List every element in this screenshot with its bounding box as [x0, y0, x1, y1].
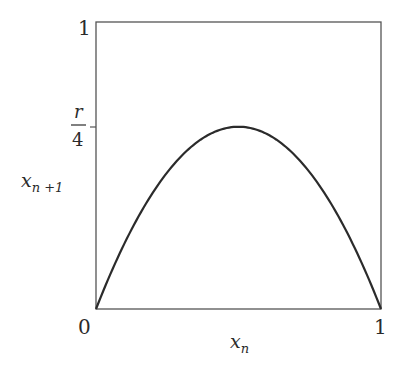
x-axis-label: xn: [230, 330, 249, 356]
y-axis-label-main: x: [21, 169, 32, 191]
logistic-curve: [96, 127, 381, 309]
y-tick-label-1: 1: [78, 16, 91, 40]
y-tick-label-r-denominator: 4: [72, 129, 83, 150]
y-tick-label-r-numerator: r: [74, 101, 84, 122]
x-tick-label-0: 0: [78, 315, 91, 339]
x-tick-label-1: 1: [374, 315, 387, 339]
logistic-map-chart: 1 r 4 xn +1 0 1 xn: [0, 0, 401, 371]
x-axis-label-subscript: n: [241, 341, 249, 356]
x-axis-label-main: x: [230, 330, 241, 352]
y-axis-label: xn +1: [21, 169, 63, 195]
y-axis-label-subscript: n +1: [32, 180, 64, 195]
plot-frame: [96, 22, 381, 309]
